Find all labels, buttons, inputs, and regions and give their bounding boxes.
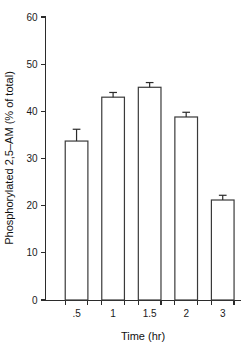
x-tick-label: 1 <box>110 308 116 319</box>
bar-chart: 0102030405060 .511.523 Time (hr) Phospho… <box>0 0 247 347</box>
x-axis-title: Time (hr) <box>121 330 165 342</box>
y-tick-label: 60 <box>26 12 38 23</box>
y-tick-label: 10 <box>26 247 38 258</box>
y-tick-label: 30 <box>26 153 38 164</box>
x-tick-label: 1.5 <box>143 308 157 319</box>
y-tick-label: 20 <box>26 200 38 211</box>
y-tick-label: 50 <box>26 59 38 70</box>
figure-container: 0102030405060 .511.523 Time (hr) Phospho… <box>0 0 247 347</box>
x-tick-label: 3 <box>220 308 226 319</box>
y-axis-title: Phosphorylated 2,5–AM (% of total) <box>3 71 15 245</box>
y-tick-label: 0 <box>32 295 38 306</box>
bar <box>102 97 125 300</box>
x-tick-label: 2 <box>183 308 189 319</box>
bar <box>175 117 198 300</box>
y-tick-label: 40 <box>26 106 38 117</box>
bar <box>138 87 161 300</box>
bar <box>211 200 234 300</box>
bar <box>65 141 88 300</box>
x-tick-label: .5 <box>72 308 81 319</box>
